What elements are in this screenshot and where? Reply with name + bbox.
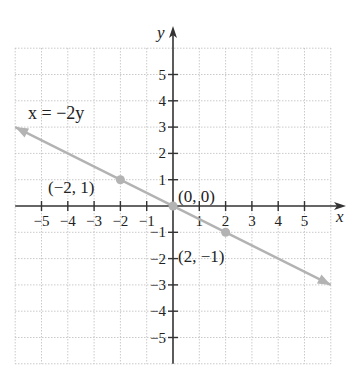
- x-tick-label: −2: [112, 213, 128, 229]
- equation-label: x = −2y: [28, 103, 84, 123]
- data-point: [169, 202, 178, 211]
- y-tick-label: −3: [150, 277, 166, 293]
- y-axis-label: y: [155, 23, 165, 42]
- y-tick-label: −4: [150, 303, 166, 319]
- x-tick-label: 3: [248, 213, 256, 229]
- x-tick-label: 4: [274, 213, 282, 229]
- data-point: [116, 175, 125, 184]
- y-tick-label: 2: [159, 145, 167, 161]
- line-arrow-left-icon: [15, 127, 29, 137]
- y-tick-label: 5: [159, 67, 167, 83]
- point-label-origin: (0, 0): [178, 187, 215, 206]
- x-tick-label: 2: [222, 213, 230, 229]
- y-tick-label: 1: [159, 172, 167, 188]
- y-tick-label: 3: [159, 119, 167, 135]
- x-axis-label: x: [335, 207, 344, 226]
- labels: x y x = −2y (−2, 1) (0, 0) (2, −1): [28, 23, 344, 266]
- coordinate-plane: −5−4−3−2−112345−5−4−3−2−112345 x y x = −…: [0, 0, 358, 374]
- line-arrow-right-icon: [317, 275, 331, 285]
- y-tick-label: −5: [150, 330, 166, 346]
- y-tick-label: −2: [150, 251, 166, 267]
- point-label-2-neg1: (2, −1): [178, 247, 224, 266]
- y-tick-label: −1: [150, 224, 166, 240]
- point-label-neg2-1: (−2, 1): [48, 178, 94, 197]
- x-tick-label: 5: [301, 213, 309, 229]
- y-tick-label: 4: [159, 93, 167, 109]
- x-tick-label: −3: [86, 213, 102, 229]
- data-point: [221, 228, 230, 237]
- x-tick-label: −4: [60, 213, 76, 229]
- x-tick-label: −5: [34, 213, 50, 229]
